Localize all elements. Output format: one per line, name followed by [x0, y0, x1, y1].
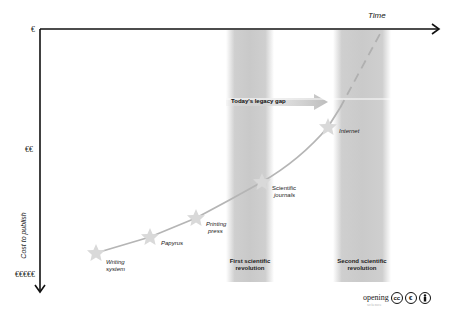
milestone-scientific-journals: Scientific journals [272, 185, 296, 199]
star-icon [141, 228, 159, 245]
opening-science-logo: opening science cc € [363, 292, 431, 304]
y-tick-high-cost: €€€€€ [15, 270, 35, 279]
y-axis-label: Cost to publish [20, 201, 27, 271]
attribution-person-icon [419, 292, 431, 304]
noncommercial-icon: € [405, 292, 417, 304]
star-icon [87, 244, 105, 261]
axes-and-curve [0, 0, 449, 324]
star-icon [319, 118, 337, 135]
first-revolution-label: First scientific revolution [222, 258, 278, 272]
milestone-internet: Internet [339, 128, 359, 135]
cc-license-icon: cc [391, 292, 403, 304]
legacy-gap-label: Today's legacy gap [231, 98, 286, 104]
y-tick-mid-cost: €€ [25, 145, 33, 154]
logo-subword: science [367, 301, 382, 309]
second-revolution-label: Second scientific revolution [330, 258, 394, 272]
star-icon [187, 209, 205, 226]
y-tick-low-cost: € [31, 25, 35, 34]
x-axis-label: Time [368, 11, 386, 20]
milestone-printing-press: Printing press [206, 221, 226, 235]
projected-curve [340, 32, 381, 108]
diagram-canvas: Time Cost to publish € €€ €€€€€ Writing … [0, 0, 449, 324]
star-icon [253, 173, 271, 190]
milestone-writing-system: Writing system [106, 259, 125, 273]
milestone-papyrus: Papyrus [161, 240, 183, 247]
